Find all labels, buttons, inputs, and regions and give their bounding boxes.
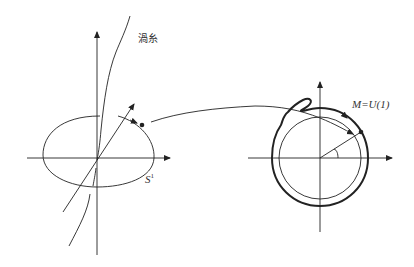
vortex-u1-diagram: 渦糸 S1 M=U(1): [0, 0, 414, 267]
left-panel: 渦糸 S1: [27, 16, 170, 255]
vortex-string-upper: [97, 16, 130, 160]
radius-line: [320, 132, 361, 158]
vortex-string-lower: [93, 168, 96, 186]
vortex-label: 渦糸: [138, 33, 158, 44]
angle-arc: [334, 149, 338, 158]
right-panel: M=U(1): [248, 82, 392, 232]
point-marker: [140, 123, 145, 128]
s1-label: S1: [145, 172, 155, 185]
mapping-curve: [151, 106, 353, 134]
manifold-label: M=U(1): [351, 98, 390, 111]
vortex-string-tail: [69, 194, 90, 246]
